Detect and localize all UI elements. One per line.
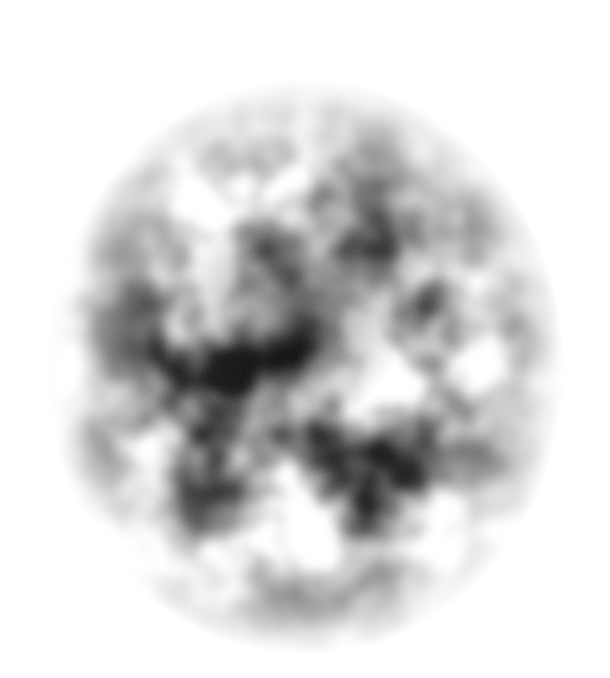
noise-cloud-image [0, 0, 610, 678]
grain-layer [35, 55, 575, 655]
noise-cloud-canvas [0, 0, 610, 678]
